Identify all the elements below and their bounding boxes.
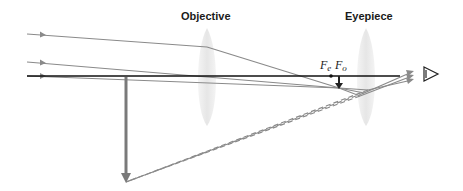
- ray-arrowheads: [40, 32, 46, 80]
- fo-label: Fo: [335, 58, 347, 73]
- telescope-ray-diagram: [0, 0, 463, 191]
- virtual-rays: [126, 90, 368, 182]
- arrow-down-icon: [121, 173, 131, 183]
- incoming-rays: [27, 34, 339, 88]
- exit-ray-arrowheads: [406, 70, 414, 84]
- eye-icon: [424, 67, 438, 81]
- fe-label: Fe: [320, 58, 331, 73]
- objective-label: Objective: [181, 10, 231, 22]
- eyepiece-label: Eyepiece: [345, 10, 393, 22]
- fe-sub: e: [327, 63, 331, 73]
- fe-point: [329, 74, 333, 78]
- fo-sub: o: [342, 63, 347, 73]
- eyepiece-lens: [357, 28, 375, 126]
